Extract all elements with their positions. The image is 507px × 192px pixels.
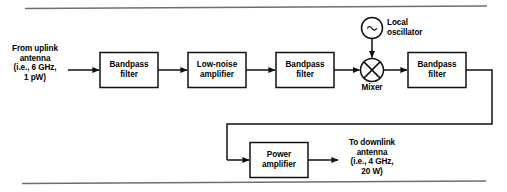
block-label-bandpass-filter-3: Bandpass filter — [408, 60, 466, 80]
downlink-output-label: To downlink antenna (i.e., 4 GHz, 20 W) — [339, 138, 405, 176]
block-label-bandpass-filter-2: Bandpass filter — [276, 60, 334, 80]
local-oscillator-label: Local oscillator — [387, 18, 453, 37]
bottom-rule — [22, 181, 486, 184]
mixer-label: Mixer — [352, 83, 392, 93]
uplink-input-label: From uplink antenna (i.e., 6 GHz, 1 pW) — [3, 44, 67, 82]
block-label-low-noise-amplifier: Low-noise amplifier — [188, 60, 246, 80]
mixer-symbol[interactable] — [361, 59, 384, 82]
block-label-power-amplifier: Power amplifier — [250, 150, 308, 170]
local-oscillator-symbol[interactable] — [362, 18, 383, 39]
figure-canvas: From uplink antenna (i.e., 6 GHz, 1 pW) … — [0, 0, 507, 192]
block-label-bandpass-filter-1: Bandpass filter — [100, 60, 158, 80]
top-rule — [25, 6, 487, 9]
